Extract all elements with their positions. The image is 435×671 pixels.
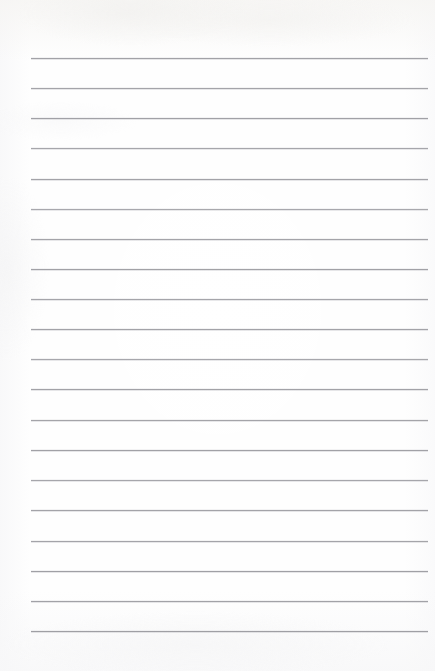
rule-line xyxy=(31,299,428,300)
rule-line xyxy=(31,420,428,421)
rule-line xyxy=(31,601,428,602)
rule-line xyxy=(31,541,428,542)
rule-line xyxy=(31,480,428,481)
rule-line xyxy=(31,179,428,180)
rule-line xyxy=(31,118,428,119)
rule-line xyxy=(31,58,428,59)
rule-line xyxy=(31,269,428,270)
rule-line xyxy=(31,631,428,632)
rule-line xyxy=(31,209,428,210)
rule-line xyxy=(31,88,428,89)
rule-line xyxy=(31,239,428,240)
rule-line xyxy=(31,148,428,149)
rule-line xyxy=(31,450,428,451)
rule-line xyxy=(31,329,428,330)
rule-line xyxy=(31,389,428,390)
rule-line xyxy=(31,510,428,511)
rule-line xyxy=(31,571,428,572)
rule-line xyxy=(31,359,428,360)
ruled-lines-layer xyxy=(0,0,435,671)
ruled-paper-page xyxy=(0,0,435,671)
